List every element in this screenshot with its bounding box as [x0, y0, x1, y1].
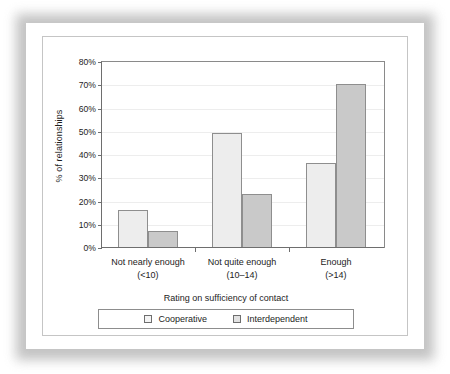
legend-item-cooperative[interactable]: Cooperative [144, 314, 207, 324]
legend-label: Cooperative [158, 314, 207, 324]
y-axis-tick-label: 20% [58, 197, 102, 207]
bar-group [101, 61, 195, 247]
y-axis-tick-label: 60% [58, 104, 102, 114]
bar-group [195, 61, 289, 247]
x-axis-label-3: Enough(>14) [289, 256, 383, 281]
bar-cooperative-1[interactable] [118, 210, 148, 247]
x-axis-category-labels: Not nearly enough(<10)Not quite enough(1… [101, 256, 383, 290]
legend-item-interdependent[interactable]: Interdependent [233, 314, 308, 324]
x-axis-label-main: Enough [320, 257, 351, 267]
legend-label: Interdependent [247, 314, 308, 324]
x-axis-category-separator [195, 247, 196, 252]
x-axis-category-separator [289, 247, 290, 252]
legend-swatch-icon [144, 315, 152, 323]
chart-page: % of relationships 80%70%60%50%40%30%20%… [0, 0, 450, 374]
x-axis-label-range: (10–14) [195, 269, 289, 282]
bar-cooperative-3[interactable] [306, 163, 336, 247]
legend-swatch-icon [233, 315, 241, 323]
y-axis-tick-label: 10% [58, 220, 102, 230]
bar-interdependent-2[interactable] [242, 194, 272, 247]
chart-legend: CooperativeInterdependent [98, 309, 354, 329]
y-axis-tick-label: 80% [58, 57, 102, 67]
x-axis-label-2: Not quite enough(10–14) [195, 256, 289, 281]
y-axis-tick-label: 30% [58, 173, 102, 183]
y-axis-tick-label: 40% [58, 150, 102, 160]
y-axis-tick-label: 70% [58, 80, 102, 90]
x-axis-line [101, 247, 384, 248]
x-axis-label-main: Not quite enough [208, 257, 277, 267]
chart-card: % of relationships 80%70%60%50%40%30%20%… [42, 36, 408, 336]
x-axis-label-1: Not nearly enough(<10) [101, 256, 195, 281]
bar-chart: % of relationships 80%70%60%50%40%30%20%… [43, 37, 409, 337]
bar-interdependent-3[interactable] [336, 84, 366, 247]
x-axis-label-main: Not nearly enough [111, 257, 185, 267]
bar-interdependent-1[interactable] [148, 231, 178, 247]
x-axis-label-range: (>14) [289, 269, 383, 282]
bar-group [289, 61, 383, 247]
x-axis-label-range: (<10) [101, 269, 195, 282]
bar-cooperative-2[interactable] [212, 133, 242, 247]
y-axis-tick-label: 0% [58, 243, 102, 253]
x-axis-title: Rating on sufficiency of contact [43, 293, 409, 303]
y-axis-tick-label: 50% [58, 127, 102, 137]
bar-series-container [101, 61, 383, 247]
